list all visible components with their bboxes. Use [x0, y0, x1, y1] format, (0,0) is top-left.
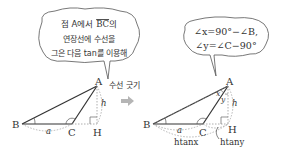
left-triangle	[22, 86, 102, 131]
right-label-htany: htany	[220, 137, 244, 147]
right-point-h: H	[228, 124, 237, 135]
diagram-canvas: 점 A에서 BC의 연장선에 수선을 그은 다음 tan를 이용해 A B C …	[0, 0, 283, 159]
left-bubble-line-3: 그은 다음 tan를 이용해	[51, 48, 128, 58]
left-annotation: 수선 긋기	[109, 81, 140, 90]
left-point-c: C	[68, 127, 76, 138]
left-point-b: B	[12, 119, 19, 130]
right-angle-y: y	[220, 95, 226, 104]
right-triangle	[153, 86, 233, 139]
right-point-c: C	[199, 127, 207, 138]
right-arrow-icon	[121, 96, 134, 106]
right-label-htanx: htanx	[174, 137, 198, 147]
right-point-a: A	[225, 76, 234, 87]
left-point-a: A	[94, 76, 103, 87]
left-side-a: a	[46, 126, 51, 136]
left-point-h: H	[93, 127, 102, 138]
left-bubble-line-1: 점 A에서 BC의	[61, 19, 117, 29]
right-height-h: h	[232, 98, 237, 108]
right-side-a: a	[177, 125, 182, 135]
left-bubble-line-2: 연장선에 수선을	[63, 34, 115, 44]
right-bubble-line-1: ∠x=90°−∠B,	[194, 26, 258, 37]
right-bubble-line-2: ∠y=∠C−90°	[195, 40, 256, 51]
right-point-b: B	[143, 119, 150, 130]
left-height-h: h	[101, 98, 106, 108]
